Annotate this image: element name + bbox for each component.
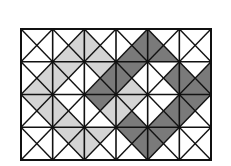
vertex-dot <box>51 60 54 63</box>
triangle-grid-diagram <box>20 28 212 161</box>
vertex-dot <box>146 60 149 63</box>
vertex-dot <box>115 93 118 96</box>
vertex-dot <box>178 126 181 129</box>
vertex-dot <box>51 126 54 129</box>
vertex-dot <box>83 93 86 96</box>
vertex-dot <box>146 126 149 129</box>
vertex-dot <box>51 93 54 96</box>
vertex-dot <box>115 60 118 63</box>
vertex-dot <box>178 60 181 63</box>
vertex-dot <box>83 126 86 129</box>
vertex-dot <box>146 93 149 96</box>
vertex-dot <box>178 93 181 96</box>
vertex-dot <box>115 126 118 129</box>
vertex-dot <box>83 60 86 63</box>
